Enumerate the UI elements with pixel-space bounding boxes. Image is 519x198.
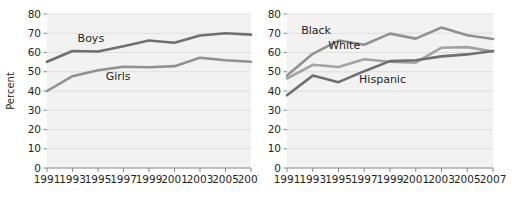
series-label-boys: Boys	[78, 32, 105, 45]
y-axis-tick: 40	[268, 85, 287, 97]
two-panel-line-chart-figure: 0102030405060708019911993199519971999200…	[0, 0, 519, 198]
y-tick-label: 50	[268, 65, 281, 77]
x-tick-label: 1995	[325, 173, 352, 185]
y-tick-label: 20	[268, 123, 281, 135]
y-tick-label: 40	[268, 85, 281, 97]
y-axis-tick: 20	[268, 123, 287, 135]
x-tick-label: 2005	[454, 173, 481, 185]
y-axis-tick: 60	[268, 46, 287, 58]
y-tick-label: 80	[268, 8, 281, 20]
y-tick-label: 40	[28, 85, 41, 97]
y-tick-label: 30	[28, 104, 41, 116]
y-tick-label: 50	[28, 65, 41, 77]
series-label-hispanic: Hispanic	[359, 73, 406, 86]
right-chart-svg: 0102030405060708019911993199519971999200…	[259, 0, 519, 198]
chart-panel-left: 0102030405060708019911993199519971999200…	[0, 0, 259, 198]
x-tick-label: 1999	[136, 173, 163, 185]
x-tick-label: 2007	[238, 173, 259, 185]
y-axis-tick: 10	[268, 142, 287, 154]
chart-panel-right: 0102030405060708019911993199519971999200…	[259, 0, 518, 198]
y-tick-label: 20	[28, 123, 41, 135]
x-tick-label: 2007	[480, 173, 507, 185]
x-tick-label: 2003	[187, 173, 214, 185]
y-axis-tick: 40	[28, 85, 47, 97]
y-axis-tick: 70	[268, 27, 287, 39]
y-axis-tick: 10	[28, 142, 47, 154]
y-tick-label: 30	[268, 104, 281, 116]
y-axis-tick: 50	[28, 65, 47, 77]
x-tick-label: 1993	[59, 173, 86, 185]
y-axis-tick: 50	[268, 65, 287, 77]
x-tick-label: 1991	[34, 173, 61, 185]
x-tick-label: 1997	[351, 173, 378, 185]
x-tick-label: 1993	[299, 173, 326, 185]
y-tick-label: 80	[28, 8, 41, 20]
series-label-black: Black	[301, 24, 331, 37]
y-axis-tick: 30	[28, 104, 47, 116]
y-tick-label: 60	[28, 46, 41, 58]
y-tick-label: 10	[28, 142, 41, 154]
x-tick-label: 1997	[110, 173, 137, 185]
series-label-white: White	[328, 39, 360, 52]
y-tick-label: 10	[268, 142, 281, 154]
x-tick-label: 2001	[161, 173, 188, 185]
y-tick-label: 0	[274, 162, 281, 174]
x-tick-label: 1999	[377, 173, 404, 185]
x-tick-label: 2005	[212, 173, 239, 185]
y-tick-label: 70	[28, 27, 41, 39]
y-axis-tick: 20	[28, 123, 47, 135]
x-tick-label: 1991	[274, 173, 301, 185]
series-label-girls: Girls	[106, 70, 131, 83]
y-axis-tick: 60	[28, 46, 47, 58]
y-axis-tick: 0	[34, 162, 47, 174]
y-axis-title: Percent	[5, 72, 16, 110]
y-tick-label: 0	[34, 162, 41, 174]
y-tick-label: 60	[268, 46, 281, 58]
y-axis-tick: 80	[28, 8, 47, 20]
left-chart-svg: 0102030405060708019911993199519971999200…	[0, 0, 259, 198]
y-axis-tick: 80	[268, 8, 287, 20]
y-tick-label: 70	[268, 27, 281, 39]
x-tick-label: 2001	[402, 173, 429, 185]
y-axis-tick: 0	[274, 162, 287, 174]
x-tick-label: 1995	[85, 173, 112, 185]
x-tick-label: 2003	[428, 173, 455, 185]
y-axis-tick: 70	[28, 27, 47, 39]
y-axis-tick: 30	[268, 104, 287, 116]
